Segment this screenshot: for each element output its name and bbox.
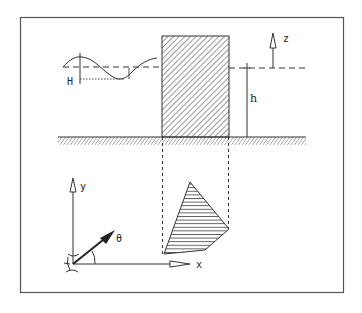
wave-height-label: H <box>67 76 73 87</box>
wave-height-marker <box>80 53 129 84</box>
angle-arc <box>92 251 95 264</box>
z-axis-arrow <box>270 33 276 68</box>
structure-block <box>162 36 229 137</box>
x-axis-label: x <box>196 259 202 270</box>
water-depth-label: h <box>250 92 257 105</box>
wave-direction-arrow <box>73 230 115 264</box>
z-axis-label: z <box>283 33 289 44</box>
y-axis-arrowhead <box>70 178 76 192</box>
x-axis-arrowhead <box>170 261 190 267</box>
seabed <box>58 137 306 145</box>
wave-angle-label: θ <box>116 233 122 244</box>
wave-profile <box>63 57 157 79</box>
y-axis-label: y <box>80 181 86 192</box>
wave-crest-marks-icon <box>64 254 79 272</box>
structure-footprint <box>164 182 229 254</box>
wave-structure-diagram: H h z y x θ <box>0 0 362 313</box>
